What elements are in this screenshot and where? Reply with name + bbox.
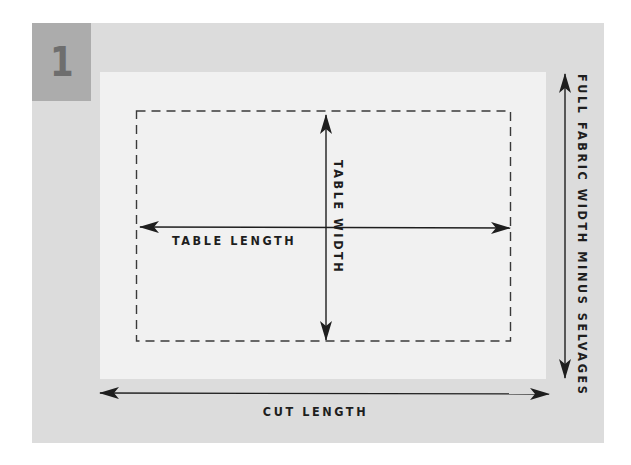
diagram-lines bbox=[0, 0, 631, 465]
cut-length-label: CUT LENGTH bbox=[0, 404, 631, 419]
table-length-arrow bbox=[140, 227, 510, 228]
table-width-label: TABLE WIDTH bbox=[331, 160, 346, 274]
cut-length-arrow bbox=[100, 393, 549, 394]
full-fabric-width-label: FULL FABRIC WIDTH MINUS SELVAGES bbox=[575, 74, 590, 396]
tabletop-dashed-outline bbox=[137, 111, 511, 341]
table-length-label: TABLE LENGTH bbox=[172, 233, 296, 248]
